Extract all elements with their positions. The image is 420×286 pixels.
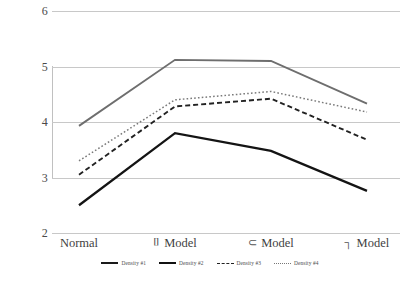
- x-label-text: Model: [164, 236, 197, 251]
- series-line: [79, 60, 367, 126]
- series-line: [79, 99, 367, 175]
- legend-line-swatch-icon: [159, 262, 176, 264]
- plot-area: [52, 11, 400, 233]
- y-tick-label: 3: [6, 170, 48, 185]
- chart-legend: Density #1Density #2Density #3Density #4: [0, 260, 420, 266]
- x-axis-label: ⌷Model: [153, 236, 197, 251]
- series-line: [79, 91, 367, 160]
- y-tick-label: 6: [6, 4, 48, 19]
- legend-label: Density #2: [179, 260, 204, 266]
- gridline-2: [52, 233, 400, 234]
- x-axis-label: ⊂Model: [248, 236, 294, 251]
- x-label-marker-icon: ⊂: [248, 237, 257, 248]
- legend-line-swatch-icon: [274, 263, 291, 264]
- y-tick-label: 4: [6, 115, 48, 130]
- x-label-text: Model: [357, 236, 390, 251]
- x-axis-labels: Normal⌷Model⊂Model┐Model: [52, 236, 400, 254]
- x-label-marker-icon: ┐: [345, 237, 353, 248]
- x-label-marker-icon: ⌷: [153, 237, 160, 248]
- y-axis-tick-labels: 65432: [0, 11, 48, 233]
- x-label-text: Model: [261, 236, 294, 251]
- y-tick-label: 5: [6, 59, 48, 74]
- x-label-text: Normal: [60, 236, 98, 251]
- legend-item[interactable]: Density #4: [274, 260, 319, 266]
- legend-item[interactable]: Density #1: [101, 260, 146, 266]
- line-chart: 65432 Normal⌷Model⊂Model┐Model Density #…: [0, 0, 420, 286]
- x-axis-label: Normal: [60, 236, 98, 251]
- legend-label: Density #3: [237, 260, 262, 266]
- series-lines: [52, 11, 400, 233]
- legend-label: Density #4: [294, 260, 319, 266]
- x-axis-label: ┐Model: [345, 236, 389, 251]
- legend-label: Density #1: [121, 260, 146, 266]
- legend-line-swatch-icon: [101, 262, 118, 264]
- legend-item[interactable]: Density #3: [217, 260, 262, 266]
- y-tick-label: 2: [6, 226, 48, 241]
- series-line: [79, 133, 367, 205]
- legend-item[interactable]: Density #2: [159, 260, 204, 266]
- legend-line-swatch-icon: [217, 263, 234, 264]
